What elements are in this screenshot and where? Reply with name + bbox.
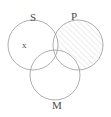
circle-label-m: M (52, 100, 62, 111)
venn-diagram: S P M x (0, 0, 111, 117)
region-mark-x: x (22, 41, 27, 50)
circle-label-s: S (30, 12, 36, 23)
circle-label-p: P (71, 11, 77, 22)
